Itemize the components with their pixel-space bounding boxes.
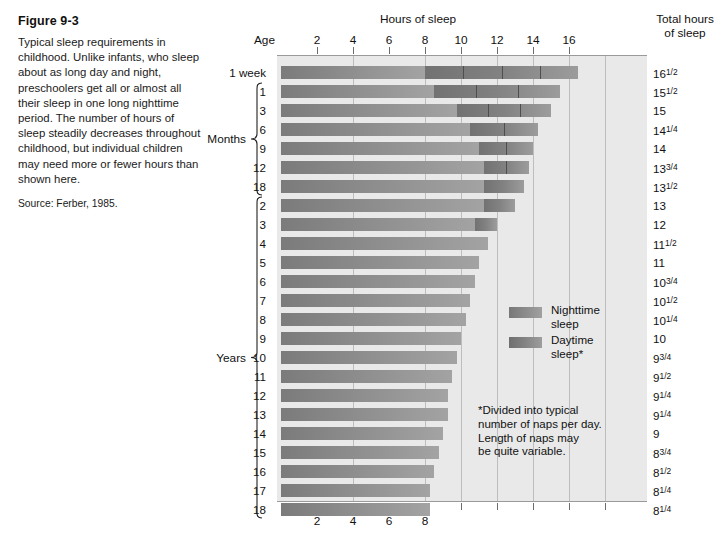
nighttime-bar bbox=[281, 313, 466, 326]
total-whole: 14 bbox=[653, 142, 666, 155]
axis-label-bottom-2: 2 bbox=[307, 514, 327, 528]
axis-label-top-8: 8 bbox=[415, 33, 435, 47]
total-whole: 11 bbox=[653, 256, 665, 269]
total-hours-value: 81/4 bbox=[653, 503, 671, 517]
nighttime-bar bbox=[281, 370, 452, 383]
axis-label-top-4: 4 bbox=[343, 33, 363, 47]
nighttime-bar bbox=[281, 294, 470, 307]
figure-source: Source: Ferber, 1985. bbox=[18, 198, 204, 209]
total-hours-header-line2: of sleep bbox=[650, 26, 720, 40]
tick-top-10 bbox=[461, 47, 462, 54]
total-whole: 11 bbox=[653, 238, 665, 251]
total-hours-value: 133/4 bbox=[653, 161, 678, 175]
nap-divider bbox=[506, 161, 507, 174]
total-fraction: 1/4 bbox=[659, 485, 671, 495]
total-fraction: 1/4 bbox=[659, 390, 671, 400]
total-whole: 9 bbox=[653, 427, 659, 440]
chart-footnote: *Divided into typical number of naps per… bbox=[478, 404, 643, 459]
total-whole: 10 bbox=[653, 276, 666, 289]
tick-top-2 bbox=[317, 47, 318, 54]
total-hours-value: 131/2 bbox=[653, 180, 678, 194]
nighttime-bar bbox=[281, 484, 430, 497]
bar-row bbox=[277, 256, 647, 269]
brace-icon bbox=[250, 82, 264, 196]
nighttime-bar bbox=[281, 161, 484, 174]
daytime-bar bbox=[457, 104, 552, 117]
total-hours-value: 83/4 bbox=[653, 446, 671, 460]
bar-row bbox=[277, 237, 647, 250]
tick-top-12 bbox=[497, 47, 498, 54]
nighttime-bar bbox=[281, 237, 488, 250]
total-whole: 15 bbox=[653, 86, 666, 99]
bar-row bbox=[277, 389, 647, 402]
total-hours-value: 12 bbox=[653, 218, 666, 231]
total-whole: 15 bbox=[653, 104, 666, 117]
nighttime-bar bbox=[281, 180, 484, 193]
total-whole: 13 bbox=[653, 181, 666, 194]
total-whole: 10 bbox=[653, 314, 666, 327]
axis-label-bottom-6: 6 bbox=[379, 514, 399, 528]
bar-row bbox=[277, 161, 647, 174]
bar-row bbox=[277, 66, 647, 79]
total-fraction: 3/4 bbox=[659, 352, 671, 362]
nighttime-bar bbox=[281, 256, 479, 269]
nighttime-bar bbox=[281, 123, 470, 136]
total-hours-value: 111/2 bbox=[653, 237, 677, 251]
nap-divider bbox=[520, 104, 521, 117]
nighttime-swatch-icon bbox=[509, 307, 542, 318]
total-fraction: 1/2 bbox=[666, 86, 678, 96]
total-whole: 14 bbox=[653, 124, 666, 137]
nap-divider bbox=[502, 66, 503, 79]
total-hours-value: 10 bbox=[653, 332, 666, 345]
figure-caption: Figure 9-3 Typical sleep requirements in… bbox=[18, 14, 204, 209]
nighttime-bar bbox=[281, 85, 434, 98]
axis-label-top-6: 6 bbox=[379, 33, 399, 47]
bar-row bbox=[277, 465, 647, 478]
figure-page: Figure 9-3 Typical sleep requirements in… bbox=[0, 0, 726, 549]
figure-description: Typical sleep requirements in childhood.… bbox=[18, 35, 204, 187]
nighttime-bar bbox=[281, 389, 448, 402]
total-fraction: 1/4 bbox=[659, 409, 671, 419]
bar-row bbox=[277, 142, 647, 155]
bar-row bbox=[277, 503, 647, 516]
nap-divider bbox=[506, 142, 507, 155]
daytime-swatch-icon bbox=[509, 337, 542, 348]
total-fraction: 1/4 bbox=[666, 124, 678, 134]
total-hours-value: 161/2 bbox=[653, 66, 678, 80]
daytime-bar bbox=[484, 199, 516, 212]
tick-top-4 bbox=[353, 47, 354, 54]
daytime-bar bbox=[475, 218, 498, 231]
total-fraction: 1/2 bbox=[665, 238, 677, 248]
total-hours-value: 13 bbox=[653, 199, 666, 212]
total-hours-value: 9 bbox=[653, 427, 659, 440]
axis-label-top-14: 14 bbox=[523, 33, 543, 47]
bar-row bbox=[277, 180, 647, 193]
total-hours-value: 14 bbox=[653, 142, 666, 155]
nighttime-bar bbox=[281, 446, 439, 459]
total-hours-value: 101/2 bbox=[653, 294, 678, 308]
tick-top-6 bbox=[389, 47, 390, 54]
axis-label-bottom-8: 8 bbox=[415, 514, 435, 528]
bar-row bbox=[277, 85, 647, 98]
total-hours-value: 91/4 bbox=[653, 389, 671, 403]
brace-label-years: Years bbox=[192, 351, 246, 365]
nighttime-bar bbox=[281, 142, 479, 155]
total-fraction: 1/2 bbox=[666, 295, 678, 305]
total-hours-value: 93/4 bbox=[653, 351, 671, 365]
total-hours-value: 91/2 bbox=[653, 370, 671, 384]
total-hours-value: 81/2 bbox=[653, 465, 671, 479]
nighttime-bar bbox=[281, 275, 475, 288]
hours-of-sleep-header: Hours of sleep bbox=[380, 12, 456, 26]
nighttime-bar bbox=[281, 104, 457, 117]
total-whole: 13 bbox=[653, 199, 666, 212]
brace-icon bbox=[250, 196, 264, 519]
total-fraction: 1/4 bbox=[659, 504, 671, 514]
legend-label-daytime: Daytime sleep* bbox=[551, 333, 594, 360]
total-whole: 10 bbox=[653, 332, 666, 345]
total-hours-value: 103/4 bbox=[653, 275, 678, 289]
total-fraction: 3/4 bbox=[666, 276, 678, 286]
bar-row bbox=[277, 218, 647, 231]
total-hours-header: Total hours of sleep bbox=[650, 12, 720, 40]
nap-divider bbox=[463, 66, 464, 79]
nap-divider bbox=[488, 104, 489, 117]
